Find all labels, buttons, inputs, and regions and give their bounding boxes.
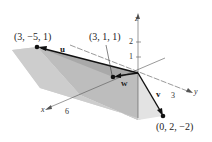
tick-label-z-2: 2 <box>129 38 133 46</box>
point-v <box>161 114 166 119</box>
label-vector-w: w <box>121 79 128 88</box>
y-arrow-icon <box>186 88 193 93</box>
x-arrow-icon <box>45 105 52 110</box>
label-point-v: (0, 2, −2) <box>156 122 193 132</box>
point-w <box>111 75 116 80</box>
label-x-axis: x <box>41 106 45 114</box>
label-vector-v: v <box>156 90 161 99</box>
point-u <box>35 45 40 50</box>
label-z-axis: z <box>135 15 138 23</box>
tick-label-z-1: 1 <box>129 53 133 61</box>
label-point-u: (3, −5, 1) <box>14 32 51 42</box>
label-vector-u: u <box>60 45 65 54</box>
label-y-axis: y <box>194 88 198 96</box>
label-point-w: (3, 1, 1) <box>89 32 121 42</box>
tick-label-x-6: 6 <box>65 108 69 116</box>
tick-label-y-3: 3 <box>171 92 175 100</box>
